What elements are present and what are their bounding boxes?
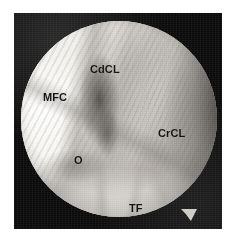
label-tibial-surface: TF (129, 203, 143, 214)
arthroscopy-photo-plate: CdCL MFC CrCL O TF (14, 13, 222, 229)
figure-root: CdCL MFC CrCL O TF (0, 0, 233, 244)
arthroscope-circular-field (21, 21, 217, 217)
label-medial-femoral-condyle: MFC (43, 92, 67, 103)
image-grain-overlay (21, 21, 217, 217)
label-o: O (74, 155, 83, 166)
label-caudal-cruciate-ligament: CdCL (90, 64, 120, 75)
label-cranial-cruciate-ligament: CrCL (158, 128, 185, 139)
